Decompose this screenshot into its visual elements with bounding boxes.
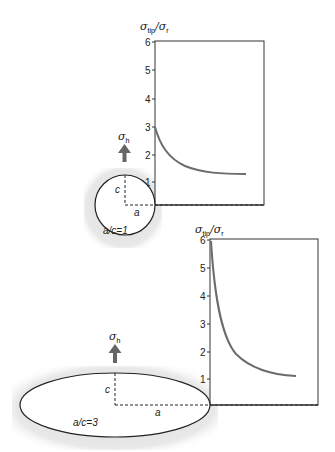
top-stress-label: σh [118, 130, 130, 144]
top-ratio-label: a/c=1 [103, 225, 128, 236]
bottom-ytick-4: 4 [200, 291, 206, 302]
top-ylabel: σtip/σr [140, 20, 169, 35]
bottom-ytick-3: 3 [200, 319, 206, 330]
top-ytick-6: 6 [145, 37, 151, 48]
bottom-stress-arrow-icon [109, 344, 122, 363]
bottom-ytick-1: 1 [200, 374, 206, 385]
bottom-ytick-2: 2 [200, 347, 206, 358]
top-stress-arrow-icon [118, 144, 131, 162]
top-chart-frame [155, 41, 264, 205]
bottom-stress-label: σh [109, 330, 121, 344]
top-ytick-2: 2 [145, 150, 151, 161]
bottom-c-label: c [105, 384, 110, 395]
top-ytick-3: 3 [145, 122, 151, 133]
bottom-ytick-5: 5 [200, 263, 206, 274]
bottom-ratio-label: a/c=3 [73, 417, 98, 428]
top-ytick-4: 4 [145, 94, 151, 105]
top-c-label: c [115, 184, 120, 195]
bottom-panel: 1 2 3 4 5 6 σtip/σr c a a/c=3 σh [12, 223, 318, 450]
bottom-a-label: a [155, 407, 161, 418]
figure-canvas: 1 2 3 4 5 6 σtip/σr c a a/c=1 σh [0, 0, 335, 452]
top-a-label: a [134, 207, 140, 218]
bottom-ylabel: σtip/σr [195, 223, 224, 238]
top-panel: 1 2 3 4 5 6 σtip/σr c a a/c=1 σh [84, 20, 264, 248]
bottom-chart-frame [210, 239, 318, 405]
top-ytick-5: 5 [145, 65, 151, 76]
